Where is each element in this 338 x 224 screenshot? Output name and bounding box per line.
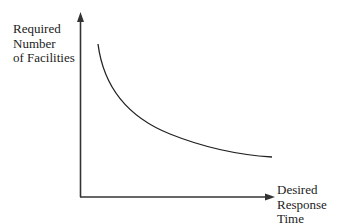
response-curve: [98, 44, 272, 157]
chart-canvas: [0, 0, 338, 224]
x-axis-arrow-icon: [265, 194, 275, 201]
y-axis-arrow-icon: [77, 12, 84, 22]
y-axis: [77, 12, 84, 197]
x-axis: [80, 194, 275, 201]
